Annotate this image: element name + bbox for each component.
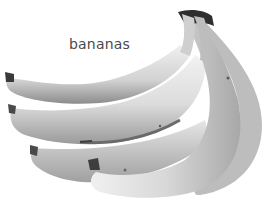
banana-photo: bananas — [0, 0, 267, 205]
bananas-illustration — [0, 0, 267, 205]
bananas-label: bananas — [69, 36, 130, 52]
